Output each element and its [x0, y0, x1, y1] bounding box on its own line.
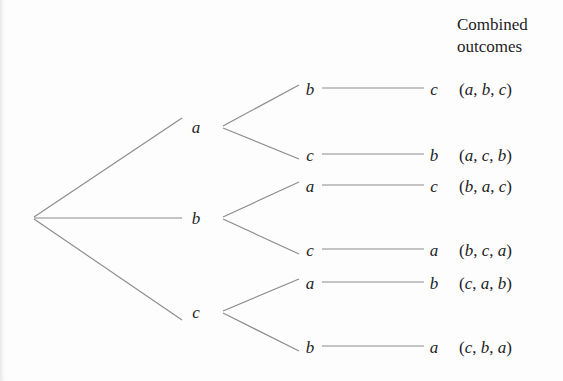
combined-outcome-1: (a, c, b) [459, 147, 512, 164]
tree-edge-level1-0 [223, 85, 299, 126]
edge-group-root-to-level1 [34, 118, 182, 320]
combined-outcome-4: (c, a, b) [459, 275, 512, 292]
tree-edge-level1-2 [223, 182, 299, 217]
tree-node-level2-3-c: c [306, 242, 314, 259]
tree-node-level2-2-a: a [306, 178, 315, 195]
tree-node-level2-4-a: a [306, 275, 315, 292]
tree-node-level3-5-a: a [430, 339, 439, 356]
tree-edge-level1-5 [223, 313, 299, 351]
tree-node-level3-1-b: b [430, 147, 439, 164]
tree-edge-level1-1 [223, 128, 299, 159]
tree-node-level3-3-a: a [430, 242, 439, 259]
edge-group-level2-to-level3 [322, 88, 424, 346]
tree-edge-level1-4 [223, 279, 299, 311]
tree-node-level2-5-b: b [306, 339, 315, 356]
combined-outcomes-header: Combined outcomes [457, 14, 528, 59]
tree-node-level3-0-c: c [430, 81, 438, 98]
tree-edge-root-0 [34, 118, 182, 217]
combined-outcome-3: (b, c, a) [459, 242, 512, 259]
tree-node-level1-1-b: b [192, 210, 201, 227]
tree-node-level2-1-c: c [306, 147, 314, 164]
tree-node-level3-2-c: c [430, 178, 438, 195]
edge-group-level1-to-level2 [223, 85, 299, 351]
tree-edge-root-2 [34, 219, 182, 320]
header-line-1: Combined [457, 14, 528, 36]
tree-node-level1-0-a: a [192, 119, 201, 136]
tree-node-level1-2-c: c [192, 304, 200, 321]
combined-outcome-0: (a, b, c) [459, 81, 512, 98]
header-line-2: outcomes [457, 36, 528, 58]
tree-node-level2-0-b: b [306, 81, 315, 98]
tree-node-level3-4-b: b [430, 275, 439, 292]
combined-outcome-2: (b, a, c) [459, 178, 512, 195]
combined-outcome-5: (c, b, a) [459, 339, 512, 356]
tree-edge-level1-3 [223, 219, 299, 254]
